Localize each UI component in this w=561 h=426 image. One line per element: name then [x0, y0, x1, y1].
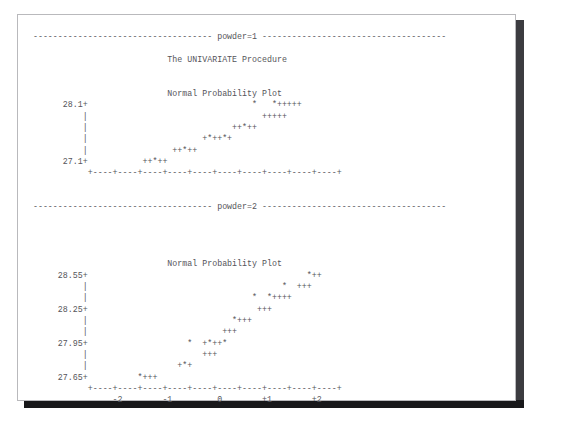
listing-blank-line [18, 43, 517, 54]
screenshot-root: ------------------------------------ pow… [0, 0, 561, 426]
listing-line: | +++++ [18, 111, 517, 122]
listing-line: 27.1+ ++*++ [18, 156, 517, 167]
listing-line: 27.95+ * +*++* [18, 338, 517, 349]
listing-blank-line [18, 213, 517, 224]
listing-line: Normal Probability Plot [18, 88, 517, 99]
listing-line: Normal Probability Plot [18, 258, 517, 269]
listing-blank-line [18, 65, 517, 76]
listing-line: 28.25+ +++ [18, 304, 517, 315]
listing-line: 28.55+ *++ [18, 270, 517, 281]
listing-line: | * +++ [18, 281, 517, 292]
listing-blank-line [18, 224, 517, 235]
listing-line: | +*+ [18, 360, 517, 371]
listing-line: 27.65+ *+++ [18, 372, 517, 383]
output-page: ------------------------------------ pow… [17, 14, 516, 401]
listing-line: | ++*++ [18, 145, 517, 156]
listing-blank-line [18, 77, 517, 88]
listing-blank-line [18, 190, 517, 201]
listing-line: ------------------------------------ pow… [18, 201, 517, 212]
listing-blank-line [18, 235, 517, 246]
listing-line: | +*++*+ [18, 133, 517, 144]
listing-line: | ++*++ [18, 122, 517, 133]
listing-line: -2 -1 0 +1 +2 [18, 394, 517, 405]
listing-line: | +++ [18, 326, 517, 337]
listing-blank-line [18, 179, 517, 190]
sas-listing-text: ------------------------------------ pow… [18, 23, 517, 405]
listing-line: | * *++++ [18, 292, 517, 303]
listing-line: +----+----+----+----+----+----+----+----… [18, 383, 517, 394]
listing-line: | *+++ [18, 315, 517, 326]
listing-line: 28.1+ * *+++++ [18, 99, 517, 110]
listing-blank-line [18, 247, 517, 258]
listing-line: The UNIVARIATE Procedure [18, 54, 517, 65]
listing-line: +----+----+----+----+----+----+----+----… [18, 167, 517, 178]
listing-line: ------------------------------------ pow… [18, 31, 517, 42]
listing-line: | +++ [18, 349, 517, 360]
page-shadow-right [516, 20, 524, 408]
